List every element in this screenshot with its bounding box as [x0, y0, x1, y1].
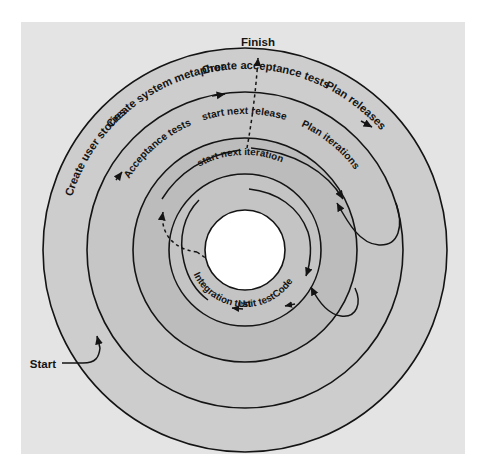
ring-core	[205, 210, 285, 290]
start-label: Start	[30, 358, 56, 370]
xp-spiral-diagram: Create user stories Create system metaph…	[0, 0, 486, 465]
finish-label: Finish	[241, 36, 275, 48]
diagram-page: Create user stories Create system metaph…	[0, 0, 486, 465]
